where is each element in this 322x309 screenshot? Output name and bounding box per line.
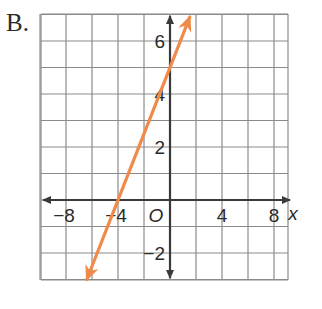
x-tick-label: 4 bbox=[217, 205, 228, 226]
y-tick-label: 2 bbox=[154, 137, 165, 158]
line-arrow-down bbox=[87, 148, 138, 279]
plot-line bbox=[87, 17, 190, 279]
x-axis-label: x bbox=[287, 203, 299, 224]
coordinate-plane: −8−448642−2Ox bbox=[0, 0, 322, 309]
origin-label: O bbox=[149, 205, 164, 226]
y-tick-label: 6 bbox=[154, 31, 165, 52]
x-tick-label: −8 bbox=[53, 205, 75, 226]
y-tick-label: −2 bbox=[143, 243, 165, 264]
x-tick-label: 8 bbox=[269, 205, 280, 226]
